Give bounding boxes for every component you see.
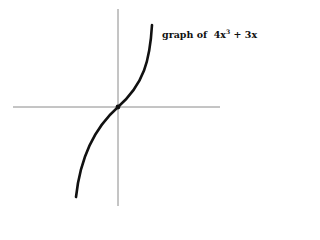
cubic-curve <box>76 25 152 197</box>
graph-label: graph of 4x3 + 3x <box>162 28 257 40</box>
origin-point <box>116 105 121 110</box>
